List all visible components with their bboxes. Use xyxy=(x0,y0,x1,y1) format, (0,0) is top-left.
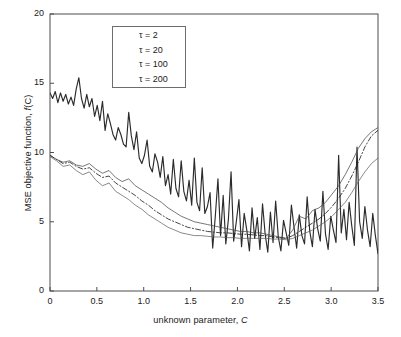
legend-label: τ = 2 xyxy=(139,30,158,40)
x-tick-label: 2.0 xyxy=(222,296,252,306)
legend-item[interactable]: τ = 100 xyxy=(118,59,184,74)
legend-label: τ = 200 xyxy=(139,74,168,84)
legend: τ = 2τ = 20τ = 100τ = 200 xyxy=(112,26,186,88)
x-tick-label: 3.0 xyxy=(316,296,346,306)
x-tick-label: 3.5 xyxy=(363,296,393,306)
y-axis-label: MSE objective function, f(C) xyxy=(23,95,33,212)
x-tick-label: 1.5 xyxy=(176,296,206,306)
axes-frame xyxy=(50,14,378,291)
y-tick-label: 20 xyxy=(18,8,44,18)
legend-item[interactable]: τ = 2 xyxy=(118,30,184,45)
x-tick-label: 0.5 xyxy=(82,296,112,306)
y-tick-label: 0 xyxy=(18,285,44,295)
y-axis-label-wrapper: MSE objective function, f(C) xyxy=(17,43,31,263)
x-axis-label: unknown parameter, C xyxy=(0,315,401,325)
legend-item[interactable]: τ = 200 xyxy=(118,74,184,89)
legend-item[interactable]: τ = 20 xyxy=(118,45,184,60)
legend-label: τ = 20 xyxy=(139,45,163,55)
chart-plot-area xyxy=(0,0,401,337)
x-tick-label: 1.0 xyxy=(129,296,159,306)
x-tick-label: 2.5 xyxy=(269,296,299,306)
legend-label: τ = 100 xyxy=(139,59,168,69)
x-tick-label: 0 xyxy=(35,296,65,306)
figure-container: 00.51.01.52.02.53.03.5 05101520 unknown … xyxy=(0,0,401,337)
